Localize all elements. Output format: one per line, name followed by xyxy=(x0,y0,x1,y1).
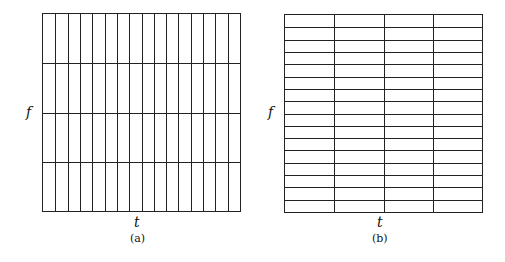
grid-row-line xyxy=(285,77,482,78)
grid-row-line xyxy=(43,113,240,114)
caption-a: (a) xyxy=(130,232,145,245)
grid-row-line xyxy=(285,64,482,65)
grid-row-line xyxy=(285,40,482,41)
grid-row-line xyxy=(285,200,482,201)
grid-row-line xyxy=(285,89,482,90)
xlabel-b: t xyxy=(377,214,383,230)
ylabel-b: f xyxy=(268,104,273,120)
grid-row-line xyxy=(43,63,240,64)
grid-row-line xyxy=(285,114,482,115)
ylabel-a: f xyxy=(26,104,31,120)
grid-row-line xyxy=(43,162,240,163)
grid-row-line xyxy=(285,138,482,139)
grid-row-line xyxy=(285,27,482,28)
grid-row-line xyxy=(285,101,482,102)
grid-row-line xyxy=(285,126,482,127)
xlabel-a: t xyxy=(134,214,140,230)
grid-row-line xyxy=(285,175,482,176)
grid-panel-b xyxy=(284,14,483,213)
grid-row-line xyxy=(285,187,482,188)
grid-panel-a xyxy=(42,13,241,212)
grid-row-line xyxy=(285,150,482,151)
caption-b: (b) xyxy=(372,232,388,245)
grid-row-line xyxy=(285,52,482,53)
grid-row-line xyxy=(285,163,482,164)
